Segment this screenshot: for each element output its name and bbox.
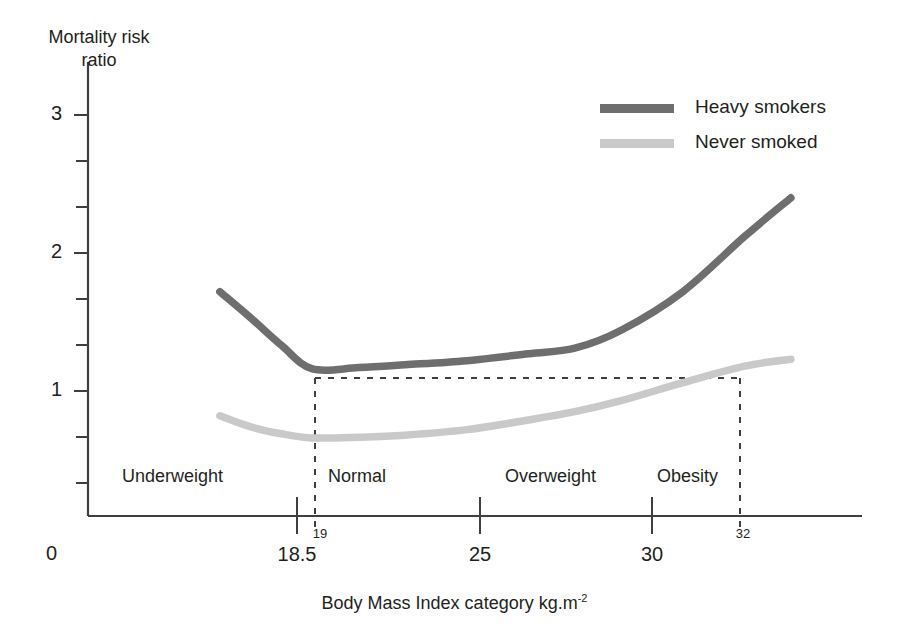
legend-swatches bbox=[600, 104, 674, 148]
x-tick-label-18-5: 18.5 bbox=[257, 543, 337, 566]
legend-swatch-heavy-smokers bbox=[600, 104, 674, 113]
category-label-underweight: Underweight bbox=[122, 466, 223, 487]
x-tick-label-30: 30 bbox=[612, 543, 692, 566]
y-tick-label-1: 1 bbox=[22, 378, 62, 401]
category-divider-lines bbox=[315, 378, 740, 534]
y-axis-title-line1: Mortality risk bbox=[48, 27, 149, 47]
reference-label-32: 32 bbox=[723, 526, 763, 541]
category-label-obesity: Obesity bbox=[657, 466, 718, 487]
legend-label-never-smoked: Never smoked bbox=[695, 131, 818, 153]
x-axis-title-main: Body Mass Index category kg.m bbox=[322, 593, 578, 613]
y-tick-label-3: 3 bbox=[22, 102, 62, 125]
category-label-normal: Normal bbox=[328, 466, 386, 487]
legend-label-heavy-smokers: Heavy smokers bbox=[695, 96, 826, 118]
y-axis-title: Mortality risk ratio bbox=[34, 26, 164, 72]
x-axis-title: Body Mass Index category kg.m-2 bbox=[0, 592, 909, 614]
reference-label-19: 19 bbox=[300, 526, 340, 541]
series-line-heavy-smokers bbox=[220, 198, 791, 371]
series-line-never-smoked bbox=[220, 359, 791, 438]
chart-plot-area bbox=[0, 0, 909, 626]
chart-figure: Mortality risk ratio 3 2 1 0 18.5 25 30 … bbox=[0, 0, 909, 626]
y-axis-title-line2: ratio bbox=[81, 50, 116, 70]
y-axis-ticks bbox=[74, 115, 88, 483]
legend-swatch-never-smoked bbox=[600, 139, 674, 148]
category-label-overweight: Overweight bbox=[505, 466, 596, 487]
y-tick-label-2: 2 bbox=[22, 240, 62, 263]
x-axis-title-exponent: -2 bbox=[578, 592, 588, 604]
y-axis-origin-label: 0 bbox=[46, 542, 57, 565]
x-tick-label-25: 25 bbox=[440, 543, 520, 566]
